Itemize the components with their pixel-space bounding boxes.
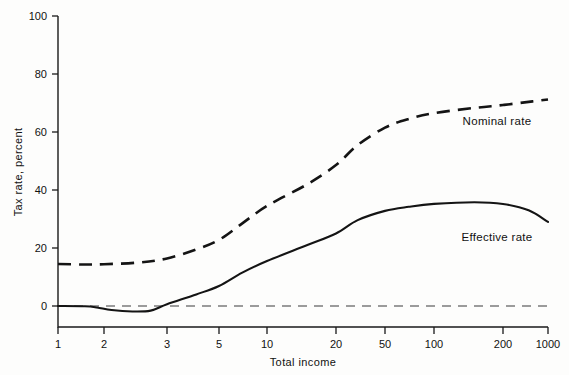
y-tick-label: 80	[35, 68, 47, 80]
y-tick-label: 40	[35, 184, 47, 196]
axis-frame	[58, 16, 548, 327]
x-tick-label: 10	[261, 338, 273, 350]
x-tick-label: 5	[216, 338, 222, 350]
series-label-nominal-rate: Nominal rate	[463, 115, 532, 127]
x-tick-label: 20	[330, 338, 342, 350]
series-label-effective-rate: Effective rate	[461, 231, 532, 243]
y-tick-label: 60	[35, 126, 47, 138]
x-tick-label: 3	[164, 338, 170, 350]
figure-chart-tax-rates: 020406080100 12351020501002001000 Nomina…	[0, 0, 569, 375]
y-axis-title: Tax rate, percent	[12, 128, 24, 217]
y-axis-ticks: 020406080100	[29, 10, 58, 312]
y-tick-label: 0	[41, 300, 47, 312]
tax-rate-line-chart: 020406080100 12351020501002001000 Nomina…	[0, 0, 569, 375]
x-axis-ticks: 12351020501002001000	[55, 327, 560, 350]
x-tick-label: 200	[494, 338, 512, 350]
x-axis-title: Total income	[270, 356, 337, 368]
x-tick-label: 1	[55, 338, 61, 350]
x-tick-label: 50	[379, 338, 391, 350]
x-tick-label: 100	[425, 338, 443, 350]
plot-axes	[58, 16, 548, 327]
y-tick-label: 20	[35, 242, 47, 254]
x-tick-label: 1000	[536, 338, 560, 350]
y-tick-label: 100	[29, 10, 47, 22]
series-effective-rate-curve	[58, 202, 548, 311]
x-tick-label: 2	[101, 338, 107, 350]
